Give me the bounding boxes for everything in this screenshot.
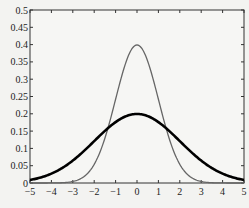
y-tick-label: 0.15: [11, 126, 29, 137]
y-tick-label: 0.45: [11, 22, 29, 33]
x-tick-label: −4: [46, 186, 57, 197]
y-tick-label: 0.05: [11, 160, 29, 171]
y-tick-label: 0.2: [16, 108, 29, 119]
y-axis-tick-labels: 00.050.10.150.20.250.30.350.40.450.5: [11, 5, 29, 189]
x-tick-label: 0: [135, 186, 140, 197]
y-tick-label: 0.4: [16, 39, 29, 50]
plot-area: [30, 10, 244, 183]
x-tick-label: −1: [110, 186, 121, 197]
y-tick-label: 0.35: [11, 56, 29, 67]
y-tick-label: 0.1: [16, 143, 29, 154]
y-tick-label: 0.3: [16, 74, 29, 85]
y-tick-label: 0.25: [11, 91, 29, 102]
x-tick-label: −2: [89, 186, 100, 197]
x-tick-label: 3: [199, 186, 204, 197]
x-tick-label: −3: [67, 186, 78, 197]
x-tick-label: 2: [177, 186, 182, 197]
y-tick-label: 0: [23, 178, 28, 189]
x-tick-label: 4: [220, 186, 225, 197]
y-tick-label: 0.5: [16, 5, 29, 16]
x-tick-label: 1: [156, 186, 161, 197]
x-tick-label: 5: [242, 186, 247, 197]
chart: −5−4−3−2−1012345 00.050.10.150.20.250.30…: [0, 0, 249, 208]
x-axis-tick-labels: −5−4−3−2−1012345: [25, 186, 247, 197]
